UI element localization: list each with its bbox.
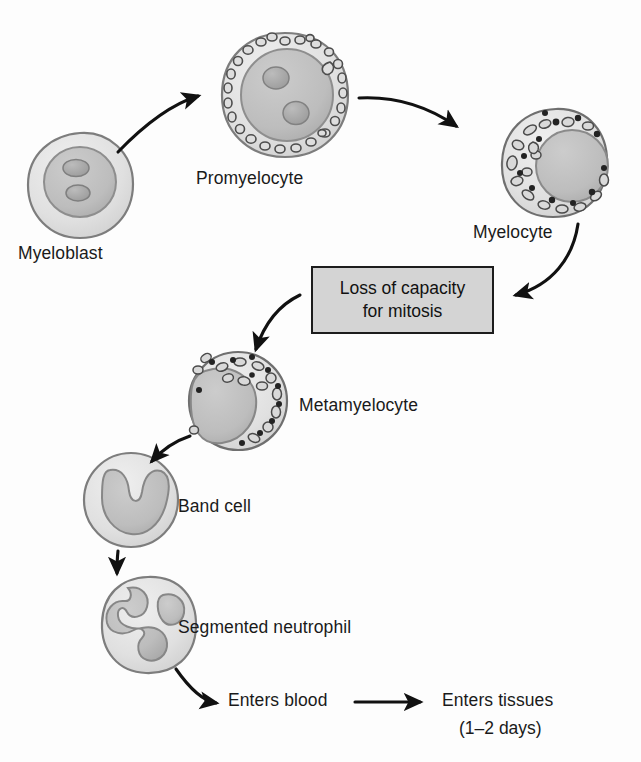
- callout-box-loss-of-capacity: Loss of capacity for mitosis: [311, 266, 494, 334]
- arrow-promyelocyte-to-myelocyte: [359, 98, 456, 126]
- arrow-band-to-neutrophil: [117, 551, 118, 573]
- cell-myelocyte: [502, 109, 609, 217]
- callout-box-text: Loss of capacity for mitosis: [340, 277, 465, 323]
- fate-enters-blood: Enters blood: [228, 690, 327, 712]
- cell-myeloblast: [28, 133, 133, 238]
- arrow-myeloblast-to-promyelocyte: [118, 96, 198, 152]
- arrow-neutrophil-to-blood: [176, 669, 216, 703]
- cell-promyelocyte: [222, 33, 348, 157]
- arrow-metamyelocyte-to-band: [152, 436, 190, 461]
- fate-duration: (1–2 days): [459, 718, 542, 739]
- cell-label-myelocyte: Myelocyte: [473, 222, 553, 244]
- cell-metamyelocyte: [189, 352, 287, 450]
- diagram-graphics-layer: [0, 0, 641, 762]
- cell-label-metamyelocyte: Metamyelocyte: [299, 395, 418, 417]
- cell-label-myeloblast: Myeloblast: [18, 243, 103, 265]
- cell-label-segmented-neutrophil: Segmented neutrophil: [178, 617, 351, 639]
- cell-label-promyelocyte: Promyelocyte: [196, 168, 303, 190]
- cell-label-band-cell: Band cell: [178, 496, 251, 518]
- neutrophil-maturation-diagram: Loss of capacity for mitosis Myeloblast …: [0, 0, 641, 762]
- cell-band: [84, 453, 178, 547]
- fate-enters-tissues: Enters tissues: [442, 690, 553, 712]
- arrow-box-to-metamyelocyte: [256, 295, 300, 349]
